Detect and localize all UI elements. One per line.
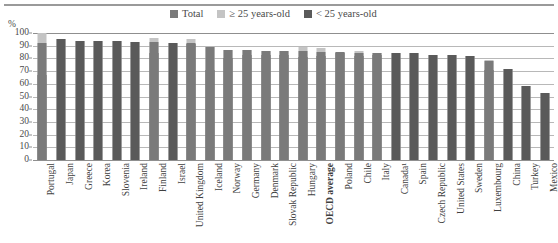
x-axis-label-slot: Italy	[368, 163, 387, 243]
bar-total[interactable]	[149, 42, 158, 160]
bar-group[interactable]	[312, 33, 331, 160]
y-tick-label: 80	[20, 54, 30, 64]
y-tick-label: 20	[20, 130, 30, 140]
square-swatch-icon	[170, 10, 178, 18]
bar-total[interactable]	[243, 50, 252, 160]
bar-total[interactable]	[354, 53, 363, 160]
y-tick-mark	[29, 33, 32, 34]
chart-legend: Total≥ 25 years-old< 25 years-old	[170, 7, 377, 21]
x-axis-label-slot: Iceland	[200, 163, 219, 243]
bar-total[interactable]	[168, 43, 177, 160]
y-tick-label: 60	[20, 79, 30, 89]
bar-total[interactable]	[484, 61, 493, 160]
y-tick-label: 70	[20, 66, 30, 76]
bar-group[interactable]	[517, 33, 536, 160]
bar-total[interactable]	[410, 53, 419, 160]
x-axis-label-slot: Slovenia	[107, 163, 126, 243]
bar-total[interactable]	[94, 41, 103, 160]
y-tick-label: 30	[20, 117, 30, 127]
bar-total[interactable]	[224, 50, 233, 160]
bar-group[interactable]	[219, 33, 238, 160]
x-axis-label-slot: United States	[442, 163, 461, 243]
bar-total[interactable]	[56, 39, 65, 160]
x-axis-labels: PortugalJapanGreeceKoreaSloveniaIrelandF…	[33, 163, 554, 243]
bar-total[interactable]	[503, 69, 512, 160]
bar-group[interactable]	[442, 33, 461, 160]
bar-group[interactable]	[498, 33, 517, 160]
x-axis-label-slot: Canada¹	[387, 163, 406, 243]
x-axis-label-slot: Turkey	[517, 163, 536, 243]
legend-item-label: Total	[182, 9, 203, 20]
x-axis-label-slot: Poland	[331, 163, 350, 243]
legend-item: ≥ 25 years-old	[217, 9, 290, 20]
bar-total[interactable]	[447, 55, 456, 160]
y-tick-label: 0	[24, 155, 29, 165]
square-swatch-icon	[217, 10, 225, 18]
bar-group[interactable]	[33, 33, 52, 160]
x-axis-label-slot: OECD average	[312, 163, 331, 243]
bar-group[interactable]	[387, 33, 406, 160]
bar-group[interactable]	[294, 33, 313, 160]
x-axis-label-slot: Finland	[145, 163, 164, 243]
header-divider	[4, 4, 554, 6]
bar-group[interactable]	[331, 33, 350, 160]
x-axis-label-slot: Japan	[52, 163, 71, 243]
bar-total[interactable]	[391, 53, 400, 160]
plot-area: 0102030405060708090100	[33, 33, 554, 160]
y-tick-mark	[29, 160, 32, 161]
x-axis-label: Mexico	[550, 163, 558, 192]
bar-total[interactable]	[466, 56, 475, 160]
bar-group[interactable]	[349, 33, 368, 160]
bar-group[interactable]	[145, 33, 164, 160]
bar-group[interactable]	[535, 33, 554, 160]
legend-item-label: ≥ 25 years-old	[229, 9, 290, 20]
bar-total[interactable]	[298, 51, 307, 160]
bar-group[interactable]	[405, 33, 424, 160]
y-tick-label: 90	[20, 41, 30, 51]
bar-group[interactable]	[461, 33, 480, 160]
bar-total[interactable]	[131, 42, 140, 160]
bar-total[interactable]	[540, 93, 549, 160]
bar-group[interactable]	[368, 33, 387, 160]
bar-group[interactable]	[107, 33, 126, 160]
bar-total[interactable]	[187, 43, 196, 160]
x-axis-label-slot: Israel	[163, 163, 182, 243]
bar-total[interactable]	[112, 41, 121, 160]
square-swatch-icon	[304, 10, 312, 18]
bar-series-group	[33, 33, 554, 160]
y-tick-label: 50	[20, 92, 30, 102]
bar-group[interactable]	[126, 33, 145, 160]
bar-total[interactable]	[317, 52, 326, 160]
bar-total[interactable]	[205, 47, 214, 160]
bar-total[interactable]	[38, 43, 47, 160]
bar-group[interactable]	[52, 33, 71, 160]
bar-group[interactable]	[163, 33, 182, 160]
bar-total[interactable]	[373, 53, 382, 160]
bar-total[interactable]	[75, 41, 84, 160]
x-axis-label-slot: Ireland	[126, 163, 145, 243]
legend-item: Total	[170, 9, 203, 20]
bar-group[interactable]	[200, 33, 219, 160]
bar-total[interactable]	[280, 51, 289, 160]
x-axis-label-slot: Luxembourg	[480, 163, 499, 243]
bar-group[interactable]	[238, 33, 257, 160]
bar-group[interactable]	[275, 33, 294, 160]
bar-group[interactable]	[424, 33, 443, 160]
bar-group[interactable]	[256, 33, 275, 160]
bar-total[interactable]	[336, 52, 345, 160]
bar-group[interactable]	[480, 33, 499, 160]
bar-total[interactable]	[522, 86, 531, 160]
x-axis-label-slot: Portugal	[33, 163, 52, 243]
bar-group[interactable]	[182, 33, 201, 160]
legend-item: < 25 years-old	[304, 9, 377, 20]
bar-total[interactable]	[429, 55, 438, 160]
x-axis-label-slot: Germany	[238, 163, 257, 243]
x-axis-label-slot: Greece	[70, 163, 89, 243]
bar-group[interactable]	[70, 33, 89, 160]
bar-group[interactable]	[89, 33, 108, 160]
x-axis-label-slot: Chile	[349, 163, 368, 243]
x-axis-label-slot: Korea	[89, 163, 108, 243]
bar-total[interactable]	[261, 51, 270, 160]
x-axis-label-slot: Czech Republic	[424, 163, 443, 243]
y-tick-label: 10	[20, 143, 30, 153]
